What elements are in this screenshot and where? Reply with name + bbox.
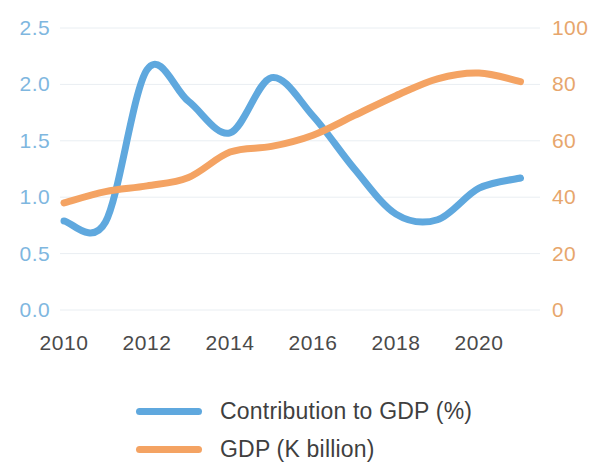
left-axis-tick-label: 0.5: [0, 243, 50, 264]
x-axis-tick-label: 2018: [371, 332, 420, 353]
plot-area: 0.00.51.01.52.02.5 020406080100: [0, 0, 599, 320]
right-axis-tick-label: 40: [552, 186, 599, 207]
legend-label: Contribution to GDP (%): [220, 400, 472, 423]
legend-swatch-icon: [136, 408, 202, 415]
right-axis-tick-label: 100: [552, 17, 599, 38]
right-axis-tick-label: 80: [552, 73, 599, 94]
chart-container: 0.00.51.01.52.02.5 020406080100 20102012…: [0, 0, 599, 468]
plot-svg: [0, 0, 599, 320]
left-axis-tick-label: 1.5: [0, 130, 50, 151]
legend-item[interactable]: Contribution to GDP (%): [0, 392, 599, 430]
right-axis-tick-label: 0: [552, 299, 599, 320]
legend-label: GDP (K billion): [220, 438, 375, 461]
chart-legend: Contribution to GDP (%)GDP (K billion): [0, 392, 599, 468]
x-axis-tick-label: 2020: [454, 332, 503, 353]
legend-item[interactable]: GDP (K billion): [0, 430, 599, 468]
left-axis-tick-label: 0.0: [0, 299, 50, 320]
left-axis-tick-label: 1.0: [0, 186, 50, 207]
x-axis-tick-label: 2014: [205, 332, 254, 353]
x-axis-tick-label: 2010: [39, 332, 88, 353]
x-axis-tick-label: 2016: [288, 332, 337, 353]
left-axis-tick-label: 2.5: [0, 17, 50, 38]
right-axis-tick-label: 20: [552, 243, 599, 264]
series-lines: [64, 64, 521, 233]
right-axis-tick-label: 60: [552, 130, 599, 151]
left-axis-tick-label: 2.0: [0, 73, 50, 94]
series-line-left: [64, 64, 521, 233]
legend-swatch-icon: [136, 446, 202, 453]
x-axis-tick-label: 2012: [122, 332, 171, 353]
